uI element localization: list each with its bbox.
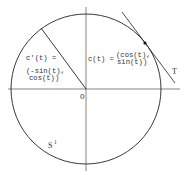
origin-label: O	[80, 93, 85, 101]
circle-label-base: S	[48, 141, 52, 150]
derivative-label-line2: cos(t))	[29, 74, 59, 82]
point-c-t	[143, 41, 146, 44]
unit-circle-diagram: O c'(t) = (-sin(t), cos(t)) c(t) = (cos(…	[0, 0, 187, 175]
circle-label-superscript: 1	[54, 139, 57, 145]
tangent-label: T	[172, 67, 177, 76]
tangent-line	[122, 12, 175, 83]
position-label-line2: sin(t))	[117, 58, 147, 66]
derivative-label-lhs: c'(t) =	[26, 54, 56, 62]
position-label-lhs: c(t) =	[88, 55, 114, 63]
